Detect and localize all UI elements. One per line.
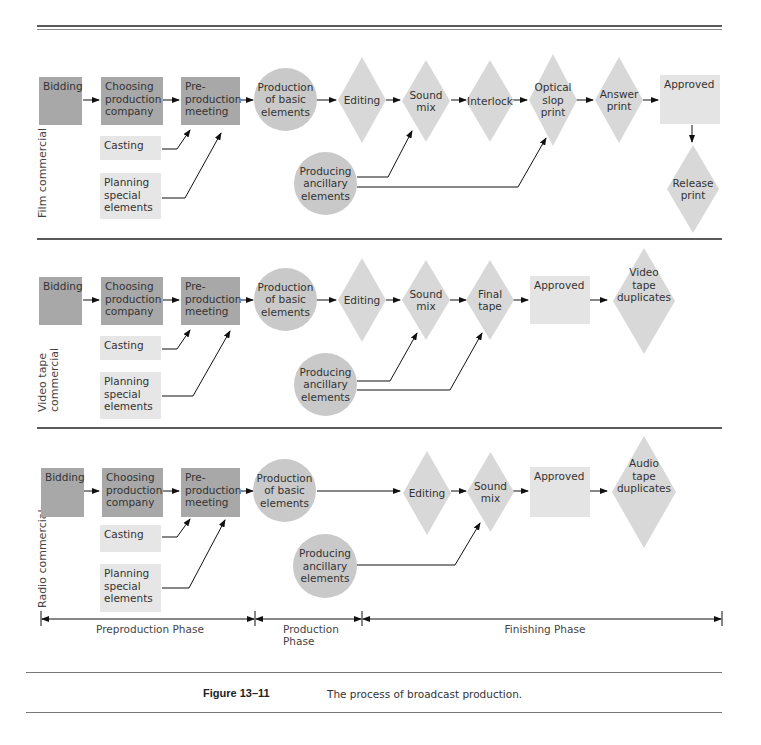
node-video-tape-duplicates: Video tape duplicates: [613, 248, 675, 354]
node-choosing-company: Choosing production company: [101, 77, 163, 125]
node-production-basic: Production of basic elements: [254, 268, 317, 331]
node-answer-print: Answer print: [595, 57, 643, 143]
node-casting: Casting: [100, 136, 161, 160]
node-preproduction-meeting: Pre- production meeting: [181, 77, 240, 125]
caption-rule-bottom: [26, 712, 722, 713]
node-producing-ancillary: Producing ancillary elements: [294, 353, 357, 416]
node-choosing-company: Choosing production company: [102, 468, 163, 517]
node-preproduction-meeting: Pre- production meeting: [181, 277, 240, 325]
node-editing: Editing: [338, 57, 386, 143]
figure-number: Figure 13–11: [203, 687, 270, 699]
node-choosing-company: Choosing production company: [101, 277, 163, 325]
node-casting: Casting: [100, 336, 161, 360]
node-interlock: Interlock: [466, 60, 514, 142]
node-producing-ancillary: Producing ancillary elements: [294, 152, 357, 215]
node-editing: Editing: [338, 258, 386, 342]
node-planning-special: Planning special elements: [100, 173, 161, 219]
node-approved: Approved: [530, 467, 590, 517]
caption-rule-top: [26, 672, 722, 673]
node-production-basic: Production of basic elements: [253, 459, 316, 522]
section-label-film: Film commercial: [37, 128, 49, 218]
node-final-tape: Final tape: [466, 260, 514, 340]
node-planning-special: Planning special elements: [100, 564, 161, 612]
node-bidding: Bidding: [39, 77, 82, 125]
node-bidding: Bidding: [39, 277, 82, 325]
figure-caption: The process of broadcast production.: [327, 688, 522, 700]
phase-label-finishing: Finishing Phase: [470, 623, 620, 635]
node-approved: Approved: [530, 276, 590, 324]
node-production-basic: Production of basic elements: [254, 68, 317, 131]
section-label-radio: Radio commercial: [37, 509, 49, 608]
node-planning-special: Planning special elements: [100, 372, 161, 419]
node-sound-mix: Sound mix: [467, 452, 514, 532]
node-release-print: Release print: [667, 145, 719, 233]
node-sound-mix: Sound mix: [402, 60, 450, 142]
node-optical-slop-print: Optical slop print: [529, 54, 577, 146]
node-bidding: Bidding: [41, 468, 84, 517]
node-audio-tape-duplicates: Audio tape duplicates: [612, 436, 676, 548]
node-producing-ancillary: Producing ancillary elements: [293, 534, 357, 598]
node-preproduction-meeting: Pre- production meeting: [181, 468, 240, 517]
node-approved: Approved: [660, 75, 720, 124]
phase-label-preproduction: Preproduction Phase: [80, 623, 220, 635]
node-editing: Editing: [403, 451, 451, 535]
node-casting: Casting: [100, 525, 161, 552]
section-label-video: Video tape commercial: [37, 348, 61, 412]
node-sound-mix: Sound mix: [402, 260, 450, 340]
phase-label-production: Production Phase: [265, 623, 345, 647]
